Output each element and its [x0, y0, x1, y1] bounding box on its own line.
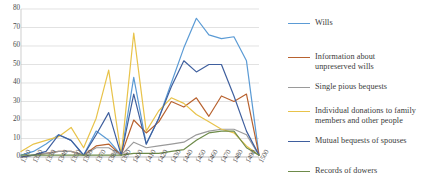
- x-tick-label: 1310: [20, 149, 33, 164]
- x-tick-label: 1420: [157, 149, 170, 164]
- x-tick-label: 1470: [220, 149, 233, 164]
- x-tick-label: 1500: [258, 149, 271, 164]
- x-tick-label: 1380: [107, 149, 120, 164]
- x-tick-label: 1410: [145, 149, 158, 164]
- x-tick-label: 1330: [45, 149, 58, 164]
- plot-area: 01020304050607080 1310132013301340135013…: [0, 0, 262, 196]
- legend-item-2[interactable]: Single pious bequests: [288, 82, 430, 92]
- x-tick-label: 1400: [132, 149, 145, 164]
- legend-item-3[interactable]: Individual donations to familymembers an…: [288, 106, 430, 126]
- x-axis: 1310132013301340135013601370138013901400…: [0, 0, 262, 196]
- legend-item-4[interactable]: Mutual bequests of spouses: [288, 136, 430, 146]
- x-tick-label: 1320: [32, 149, 45, 164]
- legend-label: Individual donations to familymembers an…: [315, 106, 416, 126]
- chart-legend: WillsInformation aboutunpreserved willsS…: [288, 0, 430, 196]
- x-tick-label: 1490: [245, 149, 258, 164]
- x-tick-label: 1480: [232, 149, 245, 164]
- x-tick-label: 1440: [182, 149, 195, 164]
- x-tick-label: 1450: [195, 149, 208, 164]
- x-tick-label: 1390: [120, 149, 133, 164]
- x-tick-label: 1360: [82, 149, 95, 164]
- legend-label: Wills: [315, 18, 333, 28]
- legend-swatch-icon: [288, 171, 310, 173]
- legend-swatch-icon: [288, 87, 310, 89]
- legend-swatch-icon: [288, 141, 310, 143]
- line-chart-figure: 01020304050607080 1310132013301340135013…: [0, 0, 430, 196]
- legend-label: Mutual bequests of spouses: [315, 136, 407, 146]
- legend-label: Records of dowers: [315, 166, 377, 176]
- legend-item-5[interactable]: Records of dowers: [288, 166, 430, 176]
- legend-label: Information aboutunpreserved wills: [315, 52, 375, 72]
- x-tick-label: 1350: [70, 149, 83, 164]
- x-tick-label: 1370: [95, 149, 108, 164]
- legend-label: Single pious bequests: [315, 82, 387, 92]
- legend-item-0[interactable]: Wills: [288, 18, 430, 28]
- legend-swatch-icon: [288, 23, 310, 25]
- x-tick-label: 1460: [207, 149, 220, 164]
- legend-item-1[interactable]: Information aboutunpreserved wills: [288, 52, 430, 72]
- x-tick-label: 1340: [57, 149, 70, 164]
- x-tick-label: 1430: [170, 149, 183, 164]
- legend-swatch-icon: [288, 57, 310, 59]
- legend-swatch-icon: [288, 111, 310, 113]
